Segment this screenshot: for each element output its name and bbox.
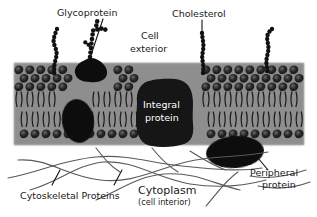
label-cell-exterior-line1: Cell [141, 30, 159, 41]
label-cholesterol: Cholesterol [172, 8, 226, 19]
label-peripheral-protein-line1: Peripheral [250, 167, 298, 178]
label-cytoskeletal-proteins: Cytoskeletal Proteins [20, 190, 120, 201]
label-integral-protein-line1: Integral [143, 99, 180, 110]
label-peripheral-protein-line2: protein [262, 179, 296, 190]
label-cell-exterior-line2: exterior [130, 43, 167, 54]
label-integral-protein-line2: protein [145, 112, 179, 123]
label-cytoplasm: Cytoplasm [138, 184, 196, 197]
label-cytoplasm-sub: (cell interior) [138, 197, 191, 207]
label-glycoprotein: Glycoprotein [57, 7, 117, 18]
membrane-diagram: Glycoprotein Cholesterol Cell exterior I… [0, 0, 317, 217]
